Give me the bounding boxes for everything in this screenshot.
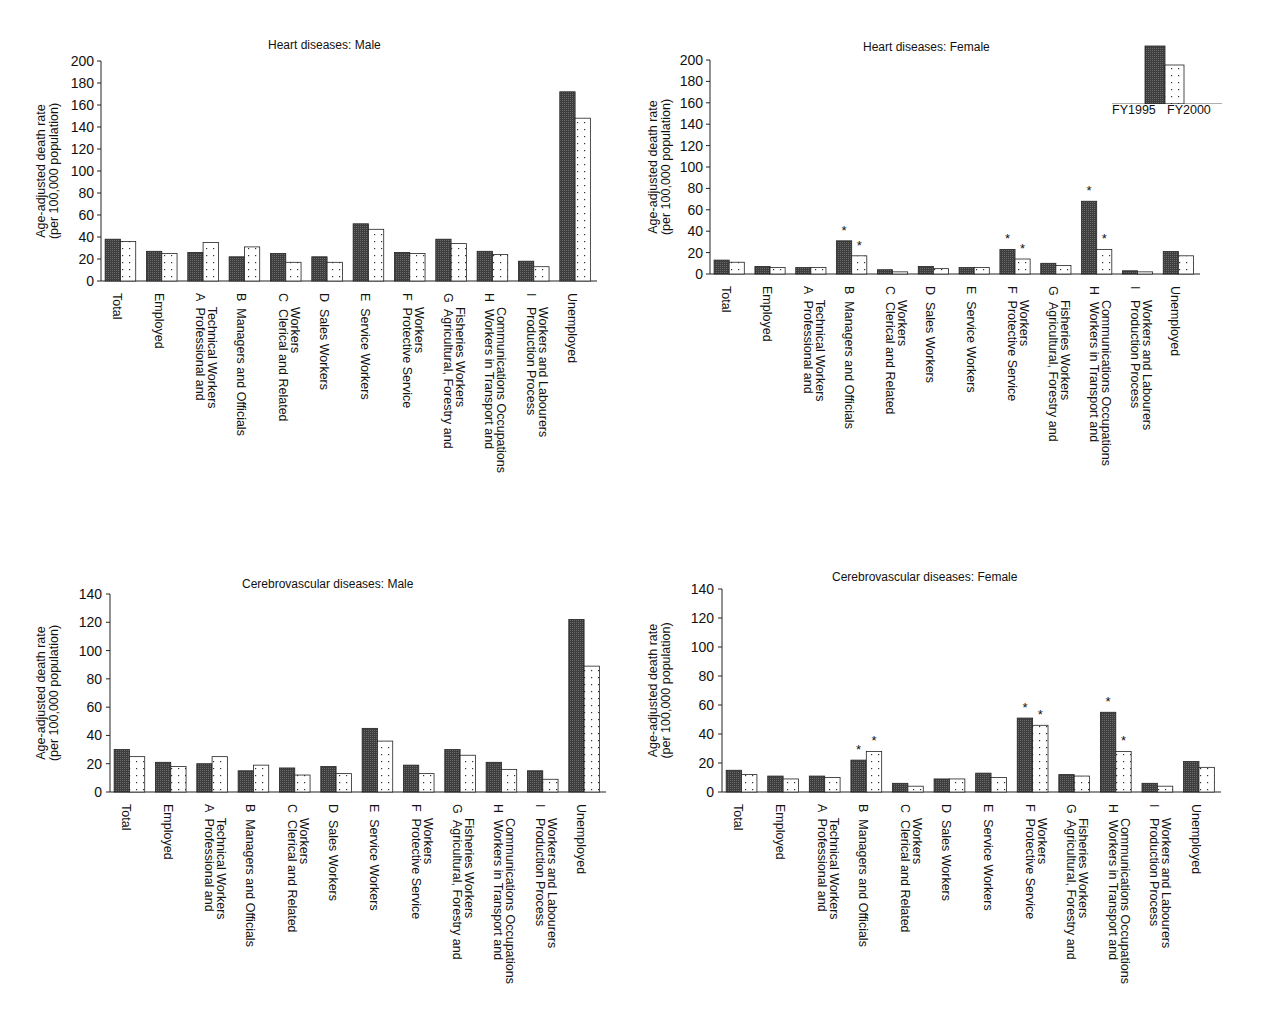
x-category-label: F Protective Service Workers — [1005, 286, 1031, 401]
bar-fy1995 — [1041, 263, 1056, 274]
bar-fy1995 — [1082, 201, 1097, 274]
bar-fy1995 — [518, 261, 533, 281]
x-category-label: Unemployed — [1168, 286, 1182, 356]
y-tick-label: 60 — [86, 699, 102, 715]
y-axis-label: Age-adjusted death rate(per 100,000 popu… — [34, 103, 61, 239]
significance-marker: * — [856, 742, 861, 757]
x-category-label: A Professional and Technical Workers — [202, 804, 228, 920]
bar-fy2000 — [451, 244, 466, 281]
significance-marker: * — [1020, 241, 1025, 256]
bar-fy2000 — [575, 118, 590, 281]
significance-marker: * — [1102, 231, 1107, 246]
bar-fy2000 — [825, 778, 840, 793]
bar-fy2000 — [866, 751, 881, 792]
y-tick-label: 160 — [71, 97, 95, 113]
bar-fy2000 — [811, 268, 826, 274]
y-tick-label: 140 — [79, 586, 103, 602]
bar-fy1995 — [714, 260, 729, 274]
significance-marker: * — [1121, 733, 1126, 748]
bar-fy1995 — [560, 92, 575, 281]
bar-fy1995 — [270, 254, 285, 282]
bar-fy2000 — [1157, 786, 1172, 792]
y-tick-label: 40 — [687, 223, 703, 239]
significance-marker: * — [842, 223, 847, 238]
x-category-label: D Sales Workers — [923, 286, 937, 383]
bar-fy1995 — [146, 251, 161, 281]
y-tick-label: 80 — [86, 671, 102, 687]
x-category-label: H Workers in Transport and Communication… — [1087, 286, 1113, 466]
bar-fy1995 — [1184, 762, 1199, 792]
bar-fy1995 — [436, 239, 451, 281]
bar-fy1995 — [188, 252, 203, 281]
bar-fy1995 — [1122, 271, 1137, 274]
bar-fy2000 — [410, 254, 425, 282]
bar-fy1995 — [1100, 712, 1115, 792]
x-category-label: Total — [719, 286, 733, 312]
x-category-label: B Managers and Officials — [842, 286, 856, 429]
significance-marker: * — [1106, 694, 1111, 709]
x-category-label: D Sales Workers — [326, 804, 340, 901]
x-category-label: I Production Process Workers and Laboure… — [524, 293, 550, 437]
bar-fy1995 — [809, 776, 824, 792]
bar-fy1995 — [1017, 718, 1032, 792]
bar-fy1995 — [197, 764, 212, 792]
chart-cerebrovascular-male: Cerebrovascular diseases: Male Age-adjus… — [0, 520, 630, 1028]
bar-fy2000 — [1199, 767, 1214, 792]
chart-heart-male: Heart diseases: Male Age-adjusted death … — [0, 0, 630, 520]
bar-fy1995 — [486, 762, 501, 792]
x-category-label: G Agricultural, Forestry and Fisheries W… — [1064, 804, 1090, 960]
bar-fy2000 — [336, 774, 351, 792]
bar-fy2000 — [991, 778, 1006, 793]
bar-fy2000 — [783, 779, 798, 792]
x-category-label: I Production Process Workers and Laboure… — [1128, 286, 1154, 430]
x-category-label: G Agricultural, Forestry and Fisheries W… — [1046, 286, 1072, 442]
y-tick-label: 140 — [680, 116, 704, 132]
bar-fy1995 — [403, 765, 418, 792]
x-category-label: Unemployed — [565, 293, 579, 363]
bar-fy2000 — [212, 757, 227, 792]
bar-fy2000 — [893, 272, 908, 274]
bar-fy2000 — [543, 779, 558, 792]
x-category-label: C Clerical and Related Workers — [883, 286, 909, 415]
bar-fy1995 — [851, 760, 866, 792]
bar-fy2000 — [327, 262, 342, 281]
x-category-label: I Production Process Workers and Laboure… — [533, 804, 559, 948]
x-category-label: Employed — [760, 286, 774, 342]
bar-fy2000 — [460, 755, 475, 792]
bar-fy2000 — [1097, 249, 1112, 274]
legend-swatch-fy1995 — [1145, 46, 1165, 104]
y-tick-label: 160 — [680, 95, 704, 111]
bar-chart: Age-adjusted death rate(per 100,000 popu… — [0, 0, 630, 520]
bar-fy1995 — [105, 239, 120, 281]
bar-fy2000 — [419, 774, 434, 792]
x-category-label: B Managers and Officials — [234, 293, 248, 436]
bar-fy2000 — [377, 741, 392, 792]
bar-fy1995 — [976, 773, 991, 792]
y-tick-label: 100 — [691, 639, 715, 655]
bar-fy2000 — [162, 254, 177, 282]
bar-fy1995 — [114, 750, 129, 792]
bar-fy2000 — [1056, 265, 1071, 274]
x-category-label: A Professional and Technical Workers — [193, 293, 219, 409]
y-tick-label: 200 — [680, 52, 704, 68]
bar-fy1995 — [755, 267, 770, 274]
bar-fy1995 — [321, 767, 336, 792]
bar-fy1995 — [362, 728, 377, 792]
y-tick-label: 20 — [687, 245, 703, 261]
bar-fy2000 — [501, 769, 516, 792]
bar-fy1995 — [1000, 249, 1015, 274]
y-tick-label: 60 — [698, 697, 714, 713]
bar-fy1995 — [959, 268, 974, 274]
bar-fy2000 — [203, 243, 218, 282]
bar-fy1995 — [569, 619, 584, 792]
y-tick-label: 80 — [698, 668, 714, 684]
bar-chart: Age-adjusted death rate(per 100,000 popu… — [0, 520, 630, 1028]
x-category-label: Unemployed — [1189, 804, 1203, 874]
x-category-label: E Service Workers — [981, 804, 995, 911]
y-tick-label: 20 — [86, 756, 102, 772]
x-category-label: Unemployed — [574, 804, 588, 874]
y-tick-label: 80 — [78, 185, 94, 201]
y-tick-label: 100 — [680, 159, 704, 175]
x-category-label: F Protective Service Workers — [409, 804, 435, 919]
x-category-label: H Workers in Transport and Communication… — [1106, 804, 1132, 984]
